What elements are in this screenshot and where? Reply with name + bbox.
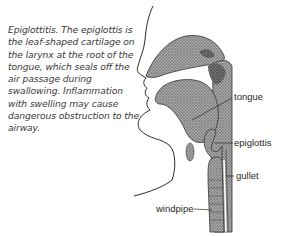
hyoid-bone-shape	[186, 143, 194, 161]
label-epiglottis: epiglottis	[234, 137, 272, 148]
label-tongue: tongue	[234, 91, 263, 102]
windpipe-shape	[208, 157, 224, 232]
label-gullet: gullet	[236, 170, 259, 181]
label-windpipe: windpipe	[156, 203, 194, 214]
caption-text: Epiglottitis. The epiglottis is the leaf…	[8, 24, 140, 135]
